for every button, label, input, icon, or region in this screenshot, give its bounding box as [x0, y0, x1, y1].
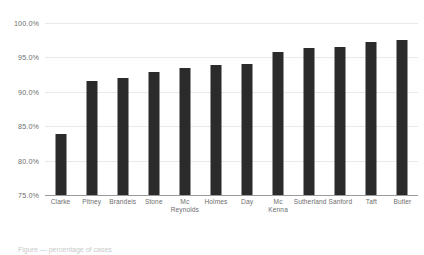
bar-slot — [294, 23, 325, 195]
y-axis-tick-label: 80.0% — [18, 156, 39, 165]
bar-slot — [387, 23, 418, 195]
plot-area — [45, 23, 418, 195]
x-axis-tick-label: Sanford — [325, 198, 356, 206]
bar-slot — [200, 23, 231, 195]
bar-slot — [325, 23, 356, 195]
bar — [304, 48, 315, 195]
x-axis-tick-label: Day — [232, 198, 263, 206]
bar-slot — [232, 23, 263, 195]
bar-slot — [138, 23, 169, 195]
bar — [242, 64, 253, 195]
bar-slot — [169, 23, 200, 195]
bar-slot — [263, 23, 294, 195]
x-axis-tick-label: Holmes — [200, 198, 231, 206]
bar — [148, 72, 159, 195]
x-axis-tick-label: McKenna — [263, 198, 294, 215]
y-axis-tick-label: 75.0% — [18, 191, 39, 200]
y-axis-tick-label: 100.0% — [14, 19, 39, 28]
x-axis-tick-label-line: Mc — [263, 198, 294, 206]
x-axis-tick-label: McReynolds — [169, 198, 200, 215]
x-axis-tick-label-line: Day — [232, 198, 263, 206]
x-axis-tick-label: Butler — [387, 198, 418, 206]
y-axis-tick-label: 95.0% — [18, 53, 39, 62]
x-axis-tick-label-line: Stone — [138, 198, 169, 206]
figure-caption: Figure — percentage of cases — [18, 247, 348, 255]
x-axis-tick-labels: ClarkePitneyBrandeisStoneMcReynoldsHolme… — [45, 198, 418, 232]
x-axis-tick-label: Taft — [356, 198, 387, 206]
y-axis-tick-label: 90.0% — [18, 87, 39, 96]
y-axis-tick-labels: 100.0%95.0%90.0%85.0%80.0%75.0% — [0, 0, 45, 195]
x-axis-tick-label-line: Butler — [387, 198, 418, 206]
gridline — [45, 195, 418, 196]
x-axis-tick-label-line: Sutherland — [294, 198, 325, 206]
bar — [86, 81, 97, 195]
x-axis-tick-label: Stone — [138, 198, 169, 206]
bar-series — [45, 23, 418, 195]
bar — [335, 47, 346, 195]
x-axis-tick-label-line: Kenna — [263, 206, 294, 214]
x-axis-tick-label-line: Clarke — [45, 198, 76, 206]
bar-slot — [45, 23, 76, 195]
bar — [179, 68, 190, 195]
bar-slot — [107, 23, 138, 195]
x-axis-tick-label: Sutherland — [294, 198, 325, 206]
x-axis-tick-label-line: Holmes — [200, 198, 231, 206]
x-axis-tick-label-line: Taft — [356, 198, 387, 206]
bar-slot — [76, 23, 107, 195]
x-axis-tick-label: Brandeis — [107, 198, 138, 206]
x-axis-tick-label-line: Brandeis — [107, 198, 138, 206]
figure-caption-text: Figure — percentage of cases — [18, 247, 348, 254]
x-axis-tick-label-line: Reynolds — [169, 206, 200, 214]
x-axis-tick-label-line: Pitney — [76, 198, 107, 206]
bar-chart: 100.0%95.0%90.0%85.0%80.0%75.0% ClarkePi… — [0, 0, 424, 255]
bar — [273, 52, 284, 195]
x-axis-tick-label: Clarke — [45, 198, 76, 206]
x-axis-tick-label-line: Sanford — [325, 198, 356, 206]
bar — [397, 40, 408, 195]
bar-slot — [356, 23, 387, 195]
bar — [210, 65, 221, 195]
y-axis-tick-label: 85.0% — [18, 122, 39, 131]
x-axis-tick-label: Pitney — [76, 198, 107, 206]
bar — [117, 78, 128, 195]
bar — [55, 134, 66, 195]
bar — [366, 42, 377, 195]
x-axis-tick-label-line: Mc — [169, 198, 200, 206]
